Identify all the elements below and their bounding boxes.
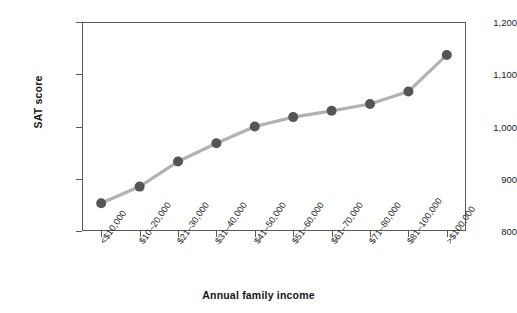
y-tick-mark — [76, 127, 82, 128]
sat-score-line-chart: 8009001,0001,1001,200 <$10,000$10–20,000… — [0, 0, 517, 313]
y-tick-mark — [76, 74, 82, 75]
y-tick-mark — [76, 231, 82, 232]
plot-area — [82, 22, 466, 231]
y-tick-label: 1,100 — [471, 69, 517, 80]
y-tick-label: 800 — [471, 226, 517, 237]
x-axis-title: Annual family income — [0, 289, 517, 301]
y-tick-label: 1,000 — [471, 121, 517, 132]
y-tick-label: 1,200 — [471, 17, 517, 28]
y-tick-mark — [76, 22, 82, 23]
y-tick-mark — [76, 179, 82, 180]
y-axis-title: SAT score — [32, 42, 44, 162]
y-tick-label: 900 — [471, 173, 517, 184]
